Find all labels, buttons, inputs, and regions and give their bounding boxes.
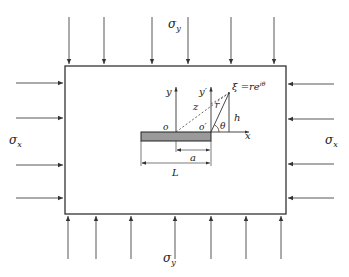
sigma-y-bottom-label: σy (163, 251, 176, 267)
theta-arc (215, 125, 220, 132)
z-label: z (192, 101, 199, 112)
sigma-y-top-label: σy (168, 17, 181, 33)
xi-label: ξ =reiθ (232, 80, 266, 92)
y-prime-axis-label: y′ (198, 86, 208, 97)
x-axis-label: x (245, 130, 251, 141)
crack-plate-diagram: σy σy σx σx x y y′ o o′ z r h θ ξ =reiθ … (0, 0, 349, 277)
y-axis-label: y (165, 86, 172, 97)
xi-point (228, 92, 230, 94)
r-label: r (215, 100, 220, 110)
L-label: L (171, 167, 179, 178)
h-label: h (234, 112, 240, 123)
sigma-x-right-label: σx (325, 133, 338, 149)
left-stress-arrows (16, 83, 63, 198)
theta-label: θ (220, 121, 226, 131)
sigma-x-left-label: σx (9, 133, 22, 149)
origin-label: o (163, 122, 169, 132)
crack (141, 132, 211, 141)
origin-prime-label: o′ (199, 122, 206, 132)
a-label: a (190, 152, 196, 163)
bottom-stress-arrows (68, 216, 281, 259)
